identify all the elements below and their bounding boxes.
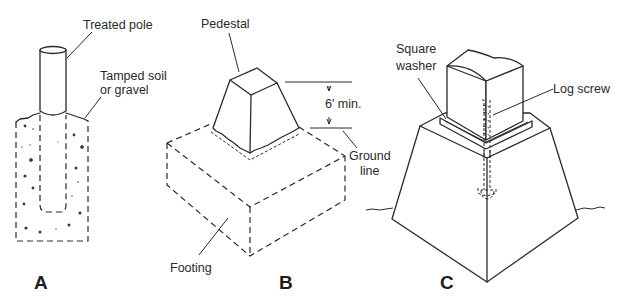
- leader-pedestal: [229, 33, 239, 72]
- panel-letter-a: A: [34, 272, 48, 293]
- panel-b: 6′ min. Pedestal Ground line Footing B: [167, 17, 391, 293]
- label-log-screw: Log screw: [553, 82, 611, 96]
- label-pedestal: Pedestal: [201, 17, 250, 31]
- leader-ground-line: [343, 131, 357, 148]
- treated-pole: [40, 47, 66, 116]
- label-line: line: [360, 164, 380, 178]
- label-tamped-soil: Tamped soil: [100, 69, 167, 83]
- leader-footing: [199, 218, 228, 255]
- label-treated-pole: Treated pole: [83, 18, 153, 32]
- panel-letter-b: B: [279, 272, 293, 293]
- pedestal: [213, 68, 299, 153]
- label-footing: Footing: [170, 261, 212, 275]
- panel-c: Square washer Log screw C: [366, 42, 611, 293]
- label-ground: Ground: [349, 149, 391, 163]
- label-6ft-min: 6′ min.: [325, 97, 361, 111]
- leader-washer: [418, 78, 446, 119]
- ground-line-right: [576, 207, 605, 210]
- panel-a: Treated pole Tamped soil or gravel A: [16, 18, 167, 293]
- leader-pole: [67, 32, 92, 58]
- ground-line-left: [366, 208, 393, 210]
- label-square: Square: [396, 42, 436, 56]
- dimension-6ft: 6′ min.: [285, 82, 361, 128]
- panel-letter-c: C: [440, 272, 454, 293]
- tamped-soil-block: [16, 113, 88, 241]
- leader-soil: [85, 97, 101, 118]
- foundation-diagram: Treated pole Tamped soil or gravel A: [0, 0, 629, 300]
- label-or-gravel: or gravel: [100, 83, 149, 97]
- label-washer: washer: [395, 59, 436, 73]
